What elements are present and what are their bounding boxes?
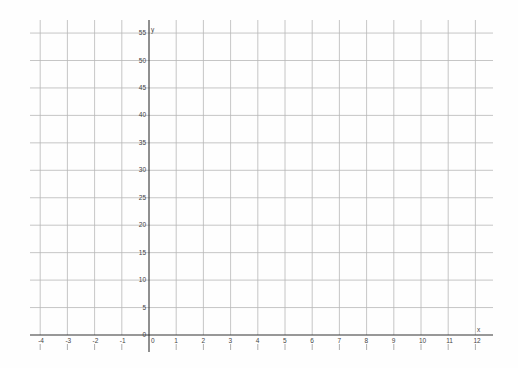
- y-tick-label: 45: [139, 84, 147, 91]
- y-tick-label: 55: [139, 29, 147, 36]
- tick-labels: -4-3-2-101234567891011120510152025303540…: [38, 29, 481, 344]
- x-axis-label: x: [477, 326, 481, 333]
- x-tick-marks: [40, 344, 475, 350]
- x-tick-label: -3: [65, 337, 71, 344]
- x-tick-label: 12: [473, 337, 481, 344]
- y-tick-label: 35: [139, 139, 147, 146]
- x-tick-label: -2: [93, 337, 99, 344]
- x-tick-label: 2: [201, 337, 205, 344]
- grid-lines: [30, 20, 493, 335]
- x-tick-label: -1: [120, 337, 126, 344]
- x-tick-label: 9: [392, 337, 396, 344]
- x-tick-label: 5: [283, 337, 287, 344]
- x-tick-label: 10: [419, 337, 427, 344]
- y-tick-label: 25: [139, 194, 147, 201]
- y-tick-label: 20: [139, 221, 147, 228]
- x-tick-label: 8: [365, 337, 369, 344]
- y-tick-label: 50: [139, 57, 147, 64]
- axes: [30, 20, 493, 352]
- x-tick-label: 0: [151, 337, 155, 344]
- y-tick-label: 40: [139, 111, 147, 118]
- x-tick-label: 11: [446, 337, 453, 344]
- x-tick-label: 1: [174, 337, 178, 344]
- x-tick-label: 6: [310, 337, 314, 344]
- x-tick-label: 7: [337, 337, 341, 344]
- coordinate-grid: -4-3-2-101234567891011120510152025303540…: [0, 0, 518, 368]
- y-tick-label: 5: [142, 304, 146, 311]
- x-tick-label: 4: [256, 337, 260, 344]
- y-tick-label: 15: [139, 249, 147, 256]
- y-tick-label: 0: [142, 331, 146, 338]
- x-tick-label: -4: [38, 337, 44, 344]
- y-tick-label: 30: [139, 166, 147, 173]
- x-tick-label: 3: [229, 337, 233, 344]
- y-tick-label: 10: [139, 276, 147, 283]
